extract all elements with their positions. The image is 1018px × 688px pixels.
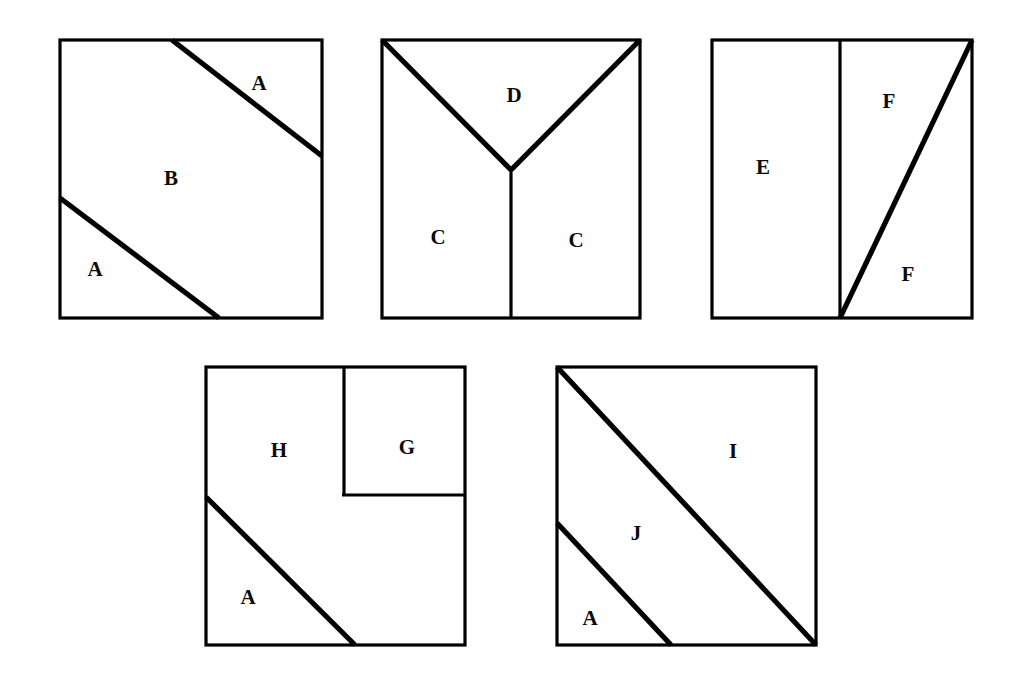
- label-a-2: A: [87, 259, 102, 280]
- label-j: J: [631, 523, 642, 544]
- square-3-outline: [712, 40, 972, 318]
- geometry-figure: ABADCCEFFHGAIJA: [0, 0, 1018, 688]
- label-a-1: A: [251, 73, 266, 94]
- label-a-4: A: [582, 608, 597, 629]
- label-c-1: C: [430, 227, 445, 248]
- label-f-2: F: [902, 264, 915, 285]
- square-5-group: [557, 367, 816, 645]
- label-d: D: [506, 85, 521, 106]
- label-i: I: [729, 441, 737, 462]
- label-g: G: [399, 437, 415, 458]
- label-h: H: [271, 440, 287, 461]
- square-3-group: [712, 40, 972, 318]
- label-e: E: [756, 157, 770, 178]
- label-a-3: A: [240, 587, 255, 608]
- label-c-2: C: [568, 230, 583, 251]
- label-b-1: B: [164, 168, 178, 189]
- label-f-1: F: [883, 91, 896, 112]
